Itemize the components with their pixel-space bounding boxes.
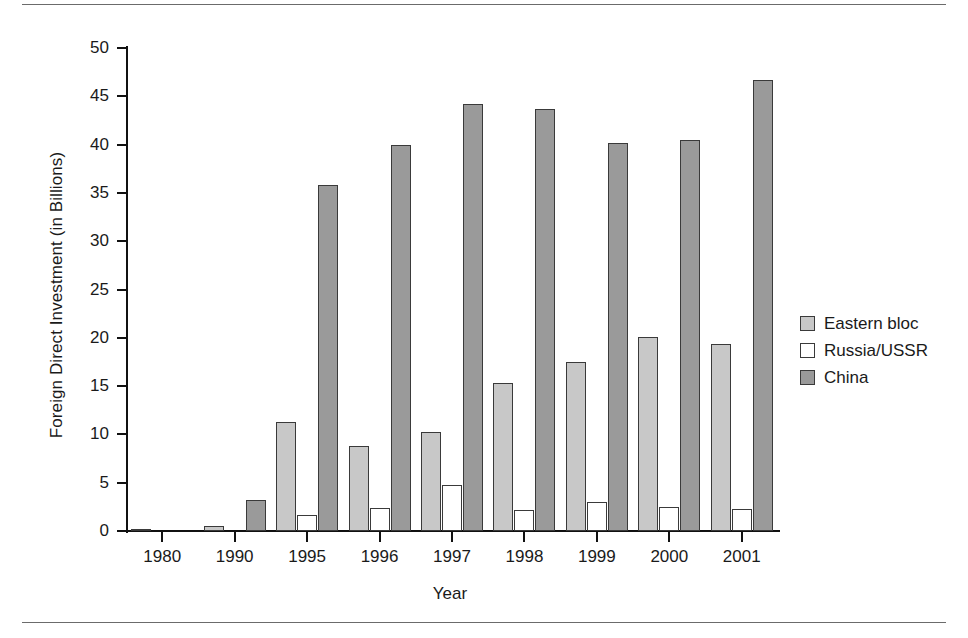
bar-1996-eastern-bloc bbox=[349, 446, 369, 531]
bar-1980-eastern-bloc bbox=[131, 529, 151, 531]
x-tick bbox=[451, 532, 453, 542]
bar-2001-russia-ussr bbox=[732, 509, 752, 531]
bar-1999-china bbox=[608, 143, 628, 531]
bar-1995-eastern-bloc bbox=[276, 422, 296, 531]
bar-1997-eastern-bloc bbox=[421, 432, 441, 531]
bar-chart-figure: Foreign Direct Investment (in Billions) … bbox=[0, 0, 968, 638]
y-tick bbox=[117, 385, 126, 387]
y-tick-label: 15 bbox=[63, 376, 109, 396]
y-tick-label: 10 bbox=[63, 424, 109, 444]
x-tick bbox=[741, 532, 743, 542]
x-tick-label-2001: 2001 bbox=[697, 547, 787, 567]
y-tick-label: 0 bbox=[63, 521, 109, 541]
x-tick bbox=[668, 532, 670, 542]
bar-2001-eastern-bloc bbox=[711, 344, 731, 531]
y-tick bbox=[117, 482, 126, 484]
bar-1999-eastern-bloc bbox=[566, 362, 586, 531]
y-tick-label: 20 bbox=[63, 328, 109, 348]
legend-swatch-icon bbox=[800, 316, 815, 331]
bar-2000-russia-ussr bbox=[659, 507, 679, 531]
y-tick-label: 5 bbox=[63, 473, 109, 493]
bar-1990-china bbox=[246, 500, 266, 531]
legend-swatch-icon bbox=[800, 343, 815, 358]
legend-label: Eastern bloc bbox=[824, 314, 919, 334]
plot-area bbox=[126, 48, 778, 531]
y-tick bbox=[117, 530, 126, 532]
x-tick bbox=[306, 532, 308, 542]
bar-1996-russia-ussr bbox=[370, 508, 390, 531]
x-tick bbox=[379, 532, 381, 542]
bar-1998-russia-ussr bbox=[514, 510, 534, 531]
bar-2000-china bbox=[680, 140, 700, 531]
x-tick bbox=[234, 532, 236, 542]
bar-1999-russia-ussr bbox=[587, 502, 607, 531]
x-tick bbox=[596, 532, 598, 542]
y-tick bbox=[117, 47, 126, 49]
bar-1996-china bbox=[391, 145, 411, 531]
legend-label: China bbox=[824, 368, 868, 388]
bar-1997-russia-ussr bbox=[442, 485, 462, 531]
x-tick bbox=[161, 532, 163, 542]
y-tick bbox=[117, 240, 126, 242]
y-tick-label: 50 bbox=[63, 38, 109, 58]
y-tick-label: 25 bbox=[63, 280, 109, 300]
y-tick-label: 35 bbox=[63, 183, 109, 203]
legend-item-russia-ussr[interactable]: Russia/USSR bbox=[800, 337, 928, 364]
y-tick bbox=[117, 433, 126, 435]
legend-item-eastern-bloc[interactable]: Eastern bloc bbox=[800, 310, 928, 337]
bar-1997-china bbox=[463, 104, 483, 531]
bar-1995-russia-ussr bbox=[297, 515, 317, 531]
bar-1998-china bbox=[535, 109, 555, 531]
y-tick bbox=[117, 95, 126, 97]
legend-swatch-icon bbox=[800, 370, 815, 385]
y-tick-label: 40 bbox=[63, 135, 109, 155]
y-tick bbox=[117, 337, 126, 339]
y-tick-label: 30 bbox=[63, 231, 109, 251]
y-tick bbox=[117, 192, 126, 194]
bar-1990-eastern-bloc bbox=[204, 526, 224, 531]
legend-label: Russia/USSR bbox=[824, 341, 928, 361]
bar-2001-china bbox=[753, 80, 773, 531]
bar-1995-china bbox=[318, 185, 338, 531]
chart-legend: Eastern blocRussia/USSRChina bbox=[800, 310, 928, 391]
bar-2000-eastern-bloc bbox=[638, 337, 658, 531]
legend-item-china[interactable]: China bbox=[800, 364, 928, 391]
bar-1998-eastern-bloc bbox=[493, 383, 513, 531]
y-tick bbox=[117, 289, 126, 291]
x-tick bbox=[523, 532, 525, 542]
y-tick-label: 45 bbox=[63, 86, 109, 106]
x-axis-title: Year bbox=[120, 584, 780, 604]
y-tick bbox=[117, 144, 126, 146]
